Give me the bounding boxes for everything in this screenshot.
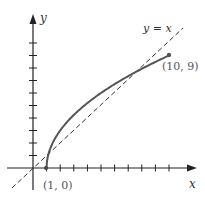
x-axis-label: x bbox=[189, 177, 196, 191]
end-point bbox=[167, 53, 171, 57]
graph-figure: y x y = x (10, 9) (1, 0) bbox=[0, 0, 205, 200]
start-point-label: (1, 0) bbox=[43, 179, 73, 192]
function-curve bbox=[47, 56, 169, 169]
x-axis-arrow-icon bbox=[187, 165, 197, 172]
identity-line-label: y = x bbox=[142, 22, 172, 35]
y-axis bbox=[29, 14, 37, 190]
y-axis-arrow-icon bbox=[30, 14, 37, 24]
end-point-label: (10, 9) bbox=[162, 60, 199, 73]
y-axis-label: y bbox=[39, 11, 47, 25]
start-point bbox=[44, 166, 48, 170]
identity-line bbox=[12, 28, 183, 188]
